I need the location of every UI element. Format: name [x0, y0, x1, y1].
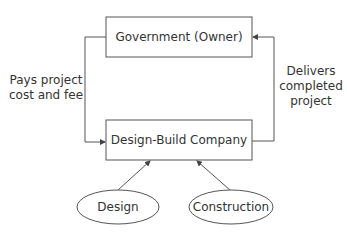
delivers-label: Delivers completed project — [276, 64, 346, 109]
delivers-label-line1: Delivers — [276, 64, 346, 79]
government-label: Government (Owner) — [106, 30, 252, 45]
delivers-arrow — [252, 37, 274, 141]
design-arrow — [118, 161, 150, 190]
company-label: Design-Build Company — [106, 133, 252, 148]
pays-arrow — [85, 37, 106, 142]
pays-label: Pays project cost and fee — [8, 73, 84, 103]
pays-label-line2: cost and fee — [8, 88, 84, 103]
pays-label-line1: Pays project — [8, 73, 84, 88]
construction-arrow — [197, 161, 230, 190]
delivers-label-line2: completed — [276, 79, 346, 94]
delivers-label-line3: project — [276, 94, 346, 109]
design-label: Design — [77, 200, 159, 215]
construction-label: Construction — [189, 200, 273, 215]
